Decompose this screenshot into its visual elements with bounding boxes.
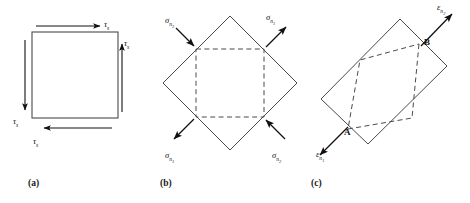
subscript-n: n1 [319,155,324,161]
subscript-s: s [107,25,109,31]
point-label-b: B [424,38,430,47]
panel-a-group [25,26,122,128]
caption-panel-a: (a) [28,178,39,188]
stress-arrow-top-left [176,28,194,46]
subscript-s: s [16,122,18,128]
caption-panel-c: (c) [311,178,322,188]
subscript-index: 2 [279,159,281,164]
stress-arrow-top-right [266,27,286,47]
label-epsilon-bottom-left: εn1 [316,150,324,163]
label-tau-bottom: τs [33,137,38,148]
label-tau-left: τs [13,117,18,128]
inner-dashed-parallelogram [348,44,419,129]
subscript-n: n2 [169,21,174,27]
figure-svg [0,0,470,203]
subscript-n: n2 [276,156,281,162]
label-sigma-top-left: σn2 [165,16,174,29]
label-sigma-bottom-right: σn2 [272,151,281,164]
subscript-s: s [127,44,129,50]
label-epsilon-top-right: εn2 [437,3,445,16]
subscript-index: 1 [273,21,275,26]
subscript-n: n2 [440,8,445,14]
panel-c-group [320,14,452,155]
subscript-index: 2 [443,11,445,16]
subscript-index: 1 [322,158,324,163]
subscript-index: 2 [172,24,174,29]
subscript-index: 1 [172,159,174,164]
caption-panel-b: (b) [160,178,172,188]
label-sigma-bottom-left: σn1 [165,151,174,164]
figure-root: τs τs τs τs σn2 σn1 σn1 σn2 εn2 εn1 A B … [0,0,470,203]
point-label-a: A [344,128,351,137]
label-tau-right: τs [124,39,129,50]
panel-b-group [163,16,297,150]
subscript-n: n1 [169,156,174,162]
label-sigma-top-right: σn1 [266,13,275,26]
inner-dashed-square [196,49,264,117]
subscript-s: s [36,142,38,148]
stress-arrow-bottom-right [266,120,285,139]
label-tau-top: τs [104,20,109,31]
stress-arrow-bottom-left [174,119,194,139]
shear-element-square [32,32,118,118]
subscript-n: n1 [270,18,275,24]
